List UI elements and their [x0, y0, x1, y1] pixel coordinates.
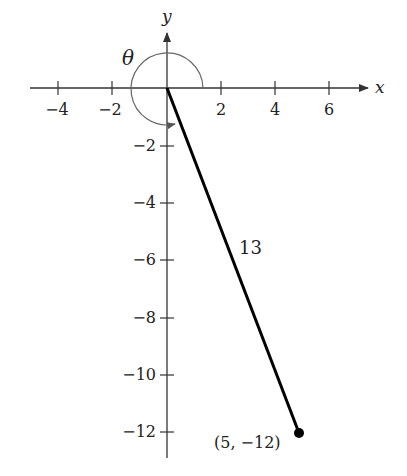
x-tick-label: 4: [270, 100, 280, 119]
y-tick-label: −2: [132, 136, 156, 155]
angle-theta-label: θ: [122, 46, 134, 70]
y-tick-label: −6: [132, 250, 156, 269]
y-tick-label: −10: [122, 365, 156, 384]
x-tick-label: −2: [98, 100, 122, 119]
terminal-side-diagram: −4 −2 2 4 6 −2 −4 −6 −8 −10 −12 x y θ 13…: [0, 0, 407, 476]
x-tick-label: 6: [324, 100, 334, 119]
terminal-side-segment: [167, 88, 299, 433]
endpoint-marker: [294, 428, 304, 438]
endpoint-label: (5, −12): [214, 433, 281, 452]
x-tick-label: 2: [216, 100, 226, 119]
x-tick-label: −4: [45, 100, 69, 119]
y-tick-label: −8: [132, 308, 156, 327]
y-axis-label: y: [161, 6, 172, 26]
y-tick-label: −12: [122, 422, 156, 441]
x-axis-label: x: [375, 77, 385, 97]
y-tick-label: −4: [132, 193, 156, 212]
segment-length-label: 13: [239, 237, 262, 258]
